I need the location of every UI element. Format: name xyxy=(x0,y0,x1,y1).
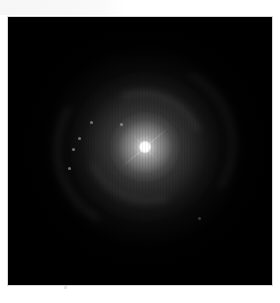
star-knot xyxy=(90,121,93,124)
star-knot xyxy=(78,137,81,140)
galaxy-nucleus xyxy=(139,141,151,153)
star-knot xyxy=(120,123,123,126)
galaxy-image xyxy=(8,17,272,285)
star-knot xyxy=(198,217,201,220)
top-strip xyxy=(0,0,125,15)
stray-mark xyxy=(64,286,67,289)
star-knot xyxy=(68,167,71,170)
star-knot xyxy=(72,148,75,151)
